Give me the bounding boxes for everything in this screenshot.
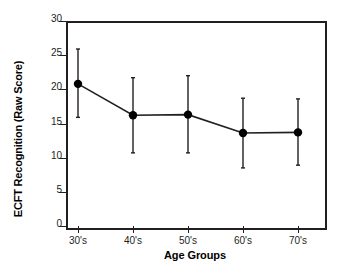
y-tick-label: 30 [51,13,62,24]
data-point-marker [239,129,247,137]
x-tick-mark [298,226,299,233]
plot-area: 051015202530 30's40's50's60's70's [66,21,323,226]
x-tick-mark [188,226,189,233]
x-tick-mark [133,226,134,233]
x-tick-label: 40's [113,235,153,246]
x-tick-mark [78,226,79,233]
y-tick-label: 10 [51,150,62,161]
x-tick-label: 50's [168,235,208,246]
y-tick-label: 20 [51,81,62,92]
y-axis-title: ECFT Recognition (Raw Score) [8,0,28,278]
x-tick-mark [243,226,244,233]
data-point-marker [74,80,82,88]
data-point-marker [129,111,137,119]
data-point-marker [184,110,192,118]
y-tick-label: 15 [51,116,62,127]
x-axis-title: Age Groups [66,249,324,261]
x-tick-label: 60's [223,235,263,246]
y-tick-label: 5 [56,184,62,195]
x-tick-label: 30's [58,235,98,246]
data-point-marker [294,128,302,136]
x-tick-label: 70's [278,235,318,246]
y-tick-label: 25 [51,47,62,58]
chart-figure: ECFT Recognition (Raw Score) 05101520253… [0,0,337,278]
y-tick-label: 0 [56,218,62,229]
data-series [66,21,323,226]
